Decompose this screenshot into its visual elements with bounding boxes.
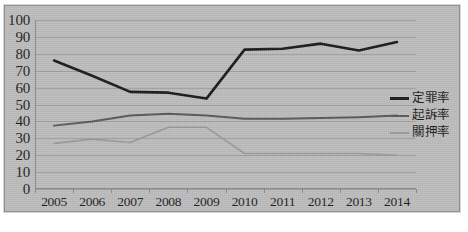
- y-axis-tick-label: 70: [15, 63, 30, 78]
- legend-color-swatch: [390, 97, 409, 100]
- x-axis-tick-label: 2008: [155, 195, 181, 209]
- y-axis-tick-label: 100: [8, 13, 30, 28]
- legend-item-label: 起訴率: [412, 109, 450, 122]
- x-axis-tick-label: 2010: [232, 195, 258, 209]
- x-axis-tick-label: 2009: [194, 195, 220, 209]
- plot-area: 0102030405060708090100 20052006200720082…: [35, 20, 416, 189]
- x-axis-tick-label: 2006: [79, 195, 105, 209]
- x-axis-tick-mark: [187, 189, 188, 193]
- legend-item[interactable]: 起訴率: [390, 107, 460, 124]
- legend-item[interactable]: 關押率: [390, 124, 460, 141]
- y-axis-tick-label: 40: [15, 114, 30, 129]
- x-axis-tick-mark: [264, 189, 265, 193]
- legend-item-label: 定罪率: [412, 92, 450, 105]
- x-axis-tick-mark: [35, 189, 36, 193]
- y-axis-tick-label: 90: [15, 29, 30, 44]
- x-axis-tick-mark: [302, 189, 303, 193]
- legend-color-swatch: [390, 132, 409, 134]
- series-line: [54, 42, 397, 99]
- legend-item-label: 關押率: [412, 126, 450, 139]
- chart-frame: 0102030405060708090100 20052006200720082…: [4, 5, 460, 212]
- series-line: [54, 114, 397, 126]
- y-axis-tick-label: 80: [15, 46, 30, 61]
- y-axis-tick-label: 0: [23, 182, 30, 197]
- series-line: [54, 127, 397, 155]
- series-lines: [35, 20, 416, 189]
- x-axis-tick-mark: [340, 189, 341, 193]
- y-axis-tick-label: 50: [15, 97, 30, 112]
- x-axis-tick-label: 2012: [308, 195, 334, 209]
- legend-item[interactable]: 定罪率: [390, 90, 460, 107]
- x-axis-tick-mark: [378, 189, 379, 193]
- plot-inner: 0102030405060708090100 20052006200720082…: [35, 20, 416, 189]
- x-axis-tick-mark: [149, 189, 150, 193]
- x-axis-tick-mark: [416, 189, 417, 193]
- chart-legend: 定罪率起訴率關押率: [390, 90, 460, 141]
- y-axis-tick-label: 20: [15, 148, 30, 163]
- y-axis-tick-label: 10: [15, 165, 30, 180]
- x-axis-tick-label: 2014: [384, 195, 410, 209]
- y-axis-tick-label: 30: [15, 131, 30, 146]
- legend-color-swatch: [390, 115, 409, 117]
- y-axis-tick-label: 60: [15, 80, 30, 95]
- x-axis-tick-label: 2005: [41, 195, 67, 209]
- x-axis-tick-mark: [73, 189, 74, 193]
- x-axis-tick-label: 2013: [346, 195, 372, 209]
- x-axis-tick-mark: [226, 189, 227, 193]
- x-axis-tick-label: 2007: [117, 195, 143, 209]
- x-axis-tick-mark: [111, 189, 112, 193]
- x-axis-tick-label: 2011: [270, 195, 295, 209]
